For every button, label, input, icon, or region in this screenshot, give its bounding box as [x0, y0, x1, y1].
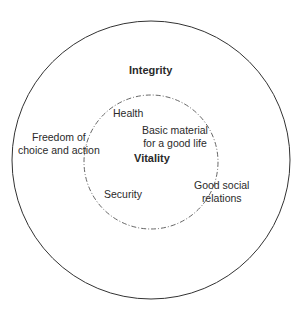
good-social-relations-label: Good social relations — [194, 179, 249, 205]
freedom-line1: Freedom of — [18, 131, 100, 144]
integrity-label: Integrity — [129, 64, 172, 77]
freedom-line2: choice and action — [18, 144, 100, 157]
basic-material-line1: Basic material — [142, 124, 208, 137]
health-label: Health — [113, 107, 143, 120]
basic-material-label: Basic material for a good life — [142, 124, 208, 150]
basic-material-line2: for a good life — [142, 137, 208, 150]
freedom-label: Freedom of choice and action — [18, 131, 100, 157]
social-line2: relations — [194, 192, 249, 205]
social-line1: Good social — [194, 179, 249, 192]
vitality-label: Vitality — [134, 152, 170, 165]
security-label: Security — [104, 188, 142, 201]
